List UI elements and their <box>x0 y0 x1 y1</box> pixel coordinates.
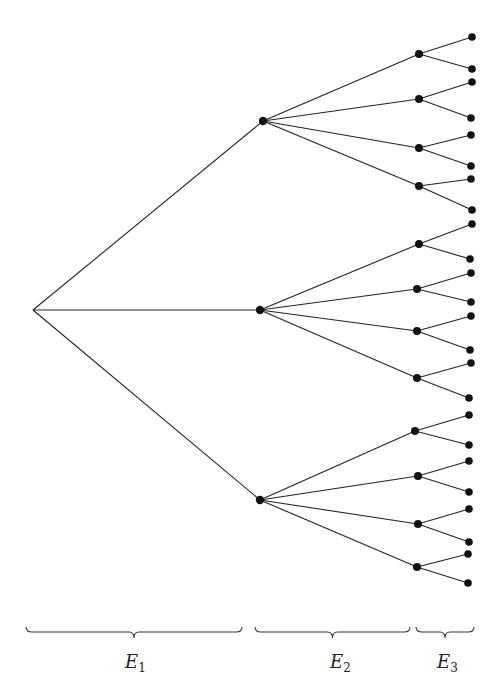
node-level3 <box>468 220 476 228</box>
brace-e3 <box>416 627 474 638</box>
node-level3 <box>467 269 475 277</box>
node-level3 <box>468 65 476 73</box>
node-level3 <box>465 411 473 419</box>
edge-level2-to-level3 <box>419 224 472 244</box>
node-level3 <box>465 441 473 449</box>
node-level1 <box>259 117 267 125</box>
node-level3 <box>467 162 475 170</box>
node-level3 <box>464 579 472 587</box>
edge-level2-to-level3 <box>418 509 469 524</box>
event-tree-diagram: E1 E2 E3 <box>0 0 497 699</box>
node-level3 <box>465 538 473 546</box>
edge-level2-to-level3 <box>415 415 469 431</box>
edge-level1-to-level2 <box>260 289 417 310</box>
edge-level2-to-level3 <box>418 476 469 492</box>
edge-level1-to-level2 <box>260 500 418 524</box>
edge-level2-to-level3 <box>417 289 471 302</box>
node-level3 <box>468 78 476 86</box>
edge-level1-to-level2 <box>260 500 417 567</box>
edge-level1-to-level2 <box>260 476 418 500</box>
edge-level2-to-level3 <box>419 82 472 99</box>
node-level1 <box>256 496 264 504</box>
node-level2 <box>411 427 419 435</box>
node-level3 <box>466 346 474 354</box>
label-e1: E1 <box>124 651 146 675</box>
node-level3 <box>467 312 475 320</box>
node-level3 <box>465 394 473 402</box>
node-level2 <box>414 520 422 528</box>
node-level3 <box>468 206 476 214</box>
edge-level2-to-level3 <box>419 244 470 259</box>
node-level2 <box>415 144 423 152</box>
edge-root-to-level1 <box>33 121 263 310</box>
node-level3 <box>467 114 475 122</box>
node-level3 <box>467 298 475 306</box>
node-level2 <box>413 374 421 382</box>
brace-e2 <box>255 627 410 638</box>
stage-braces <box>26 627 474 638</box>
tree-nodes <box>256 33 476 587</box>
node-level3 <box>468 33 476 41</box>
node-level3 <box>465 505 473 513</box>
stage-labels: E1 E2 E3 <box>124 651 458 675</box>
node-level2 <box>415 182 423 190</box>
edge-root-to-level1 <box>33 310 260 500</box>
edge-level2-to-level3 <box>418 524 469 542</box>
node-level2 <box>413 285 421 293</box>
node-level3 <box>464 550 472 558</box>
edge-level2-to-level3 <box>419 135 471 148</box>
brace-e1 <box>26 627 242 638</box>
edge-level2-to-level3 <box>417 554 468 567</box>
edge-level2-to-level3 <box>419 179 471 186</box>
edge-level2-to-level3 <box>417 273 471 289</box>
edge-level2-to-level3 <box>418 461 469 476</box>
node-level2 <box>413 563 421 571</box>
edge-level2-to-level3 <box>417 363 471 378</box>
edge-level2-to-level3 <box>417 378 469 398</box>
edge-level1-to-level2 <box>263 121 419 186</box>
label-e3: E3 <box>436 651 458 675</box>
node-level3 <box>465 457 473 465</box>
node-level2 <box>415 240 423 248</box>
edge-level2-to-level3 <box>419 99 471 118</box>
node-level2 <box>413 327 421 335</box>
tree-edges <box>33 37 472 583</box>
edge-level1-to-level2 <box>263 99 419 121</box>
edge-level1-to-level2 <box>263 54 419 121</box>
node-level3 <box>467 359 475 367</box>
edge-level1-to-level2 <box>260 431 415 500</box>
node-level1 <box>256 306 264 314</box>
node-level3 <box>467 131 475 139</box>
node-level3 <box>465 488 473 496</box>
edge-level1-to-level2 <box>260 244 419 310</box>
edge-level1-to-level2 <box>263 121 419 148</box>
label-e2: E2 <box>329 651 351 675</box>
node-level2 <box>415 50 423 58</box>
edge-level2-to-level3 <box>419 186 472 210</box>
node-level2 <box>414 472 422 480</box>
node-level3 <box>466 255 474 263</box>
edge-level2-to-level3 <box>417 316 471 331</box>
edge-level2-to-level3 <box>417 567 468 583</box>
edge-level2-to-level3 <box>417 331 470 350</box>
node-level3 <box>467 175 475 183</box>
edge-level2-to-level3 <box>415 431 469 445</box>
edge-level2-to-level3 <box>419 54 472 69</box>
node-level2 <box>415 95 423 103</box>
edge-level2-to-level3 <box>419 37 472 54</box>
edge-level2-to-level3 <box>419 148 471 166</box>
